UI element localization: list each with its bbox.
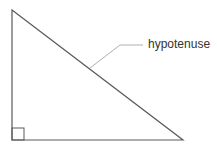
right-triangle: [12, 10, 183, 140]
right-triangle-diagram: [0, 0, 217, 150]
hypotenuse-label: hypotenuse: [148, 37, 210, 51]
right-angle-marker: [12, 128, 24, 140]
hypotenuse-leader-line: [90, 45, 143, 68]
